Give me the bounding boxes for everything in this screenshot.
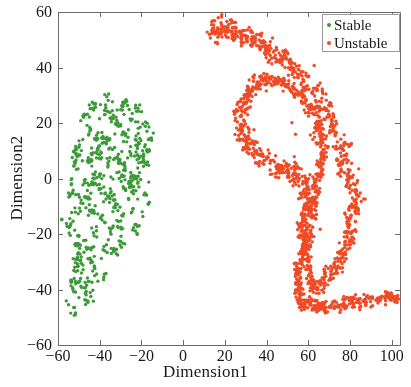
y-tick-label: 60 [6, 3, 52, 21]
y-tick-label: 40 [6, 59, 52, 77]
x-axis-label: Dimension1 [0, 362, 411, 382]
legend-entry-unstable: Unstable [326, 34, 396, 52]
y-axis-label: Dimension2 [7, 135, 26, 220]
y-tick-label: −40 [6, 281, 52, 299]
legend-box: Stable Unstable [322, 14, 400, 52]
plot-canvas [0, 0, 411, 387]
legend-marker-unstable-icon [327, 41, 331, 45]
y-axis-label-container: Dimension2 [7, 78, 27, 278]
legend-marker-stable-icon [327, 23, 331, 27]
legend-entry-stable: Stable [326, 16, 396, 34]
scatter-plot-figure: −60−40−200204060−60−40−20020406080100 Di… [0, 0, 411, 387]
legend-label-stable: Stable [334, 17, 372, 33]
legend-label-unstable: Unstable [334, 35, 387, 51]
